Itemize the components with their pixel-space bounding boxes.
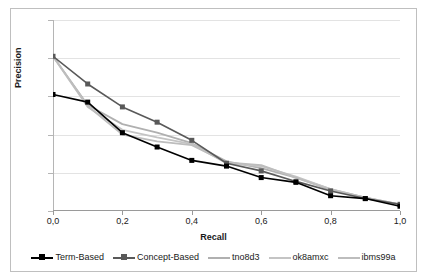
- series-line: [53, 94, 400, 206]
- legend-swatch-icon: [113, 253, 135, 262]
- legend-line: [269, 257, 291, 259]
- plot-area: 0,00,20,40,60,81,00,00,20,40,60,81,0: [53, 20, 400, 211]
- legend-swatch-icon: [269, 253, 291, 262]
- legend-swatch-icon: [208, 253, 230, 262]
- legend-label: Term-Based: [55, 252, 104, 262]
- data-point-marker: [155, 145, 160, 150]
- series-ok8amxc: [53, 56, 400, 204]
- series-term-based: [53, 92, 400, 209]
- data-point-marker: [120, 130, 125, 135]
- x-axis-title: Recall: [0, 232, 427, 242]
- data-point-marker: [224, 164, 229, 169]
- data-point-marker: [363, 196, 368, 201]
- series-line: [53, 56, 400, 204]
- data-point-marker: [293, 180, 298, 185]
- legend-item-concept-based[interactable]: Concept-Based: [113, 252, 199, 262]
- x-axis-tick-label: 0,8: [324, 217, 337, 226]
- data-point-marker: [189, 158, 194, 163]
- series-tno8d3: [53, 56, 400, 204]
- data-point-marker: [328, 193, 333, 198]
- legend-line: [208, 257, 230, 259]
- legend-marker: [39, 254, 45, 260]
- y-axis-title: Precision: [13, 47, 23, 88]
- data-point-marker: [85, 100, 90, 105]
- x-axis-tick-label: 0,2: [116, 217, 129, 226]
- x-axis-tick-label: 0,4: [186, 217, 199, 226]
- data-point-marker: [155, 120, 160, 125]
- series-concept-based: [53, 54, 400, 207]
- data-point-marker: [85, 81, 90, 86]
- x-axis-tick-label: 1,0: [394, 217, 407, 226]
- legend-label: ibms99a: [362, 252, 396, 262]
- legend-label: tno8d3: [232, 252, 260, 262]
- x-axis-tick-label: 0,0: [47, 217, 60, 226]
- series-layer: [53, 20, 400, 213]
- series-line: [53, 56, 400, 204]
- legend-line: [338, 257, 360, 259]
- legend-label: Concept-Based: [137, 252, 199, 262]
- data-point-marker: [189, 138, 194, 143]
- x-axis-tick-label: 0,6: [255, 217, 268, 226]
- data-point-marker: [53, 54, 56, 59]
- legend-swatch-icon: [31, 253, 53, 262]
- series-line: [53, 56, 400, 204]
- legend-item-tno8d3[interactable]: tno8d3: [208, 252, 260, 262]
- chart-figure: Precision 0,00,20,40,60,81,00,00,20,40,6…: [0, 0, 427, 280]
- legend-marker: [121, 254, 127, 260]
- legend-label: ok8amxc: [293, 252, 329, 262]
- legend-item-ok8amxc[interactable]: ok8amxc: [269, 252, 329, 262]
- series-ibms99a: [53, 56, 400, 204]
- x-axis-tick: [400, 211, 401, 215]
- chart-legend: Term-BasedConcept-Basedtno8d3ok8amxcibms…: [0, 252, 427, 262]
- data-point-marker: [120, 104, 125, 109]
- legend-item-ibms99a[interactable]: ibms99a: [338, 252, 396, 262]
- legend-swatch-icon: [338, 253, 360, 262]
- data-point-marker: [53, 92, 56, 97]
- data-point-marker: [328, 188, 333, 193]
- legend-item-term-based[interactable]: Term-Based: [31, 252, 104, 262]
- data-point-marker: [259, 168, 264, 173]
- data-point-marker: [259, 175, 264, 180]
- data-point-marker: [398, 204, 401, 209]
- series-line: [53, 56, 400, 204]
